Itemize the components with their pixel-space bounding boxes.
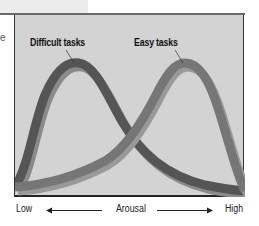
arrow-right-icon xyxy=(207,207,213,214)
x-axis-title: Arousal xyxy=(116,203,146,214)
x-tick-low: Low xyxy=(16,203,32,214)
chart-plot-area: Difficult tasks Easy tasks xyxy=(14,15,244,197)
cropped-text-fragment: e xyxy=(0,32,6,43)
arrow-left-line xyxy=(48,210,102,211)
arrow-left-icon xyxy=(46,207,52,214)
arrow-right-line xyxy=(157,210,209,211)
x-tick-high: High xyxy=(225,203,243,214)
easy-tasks-label: Easy tasks xyxy=(134,37,178,48)
x-axis: Low Arousal High xyxy=(0,203,259,217)
difficult-tasks-label: Difficult tasks xyxy=(30,37,85,48)
top-band xyxy=(0,0,88,13)
